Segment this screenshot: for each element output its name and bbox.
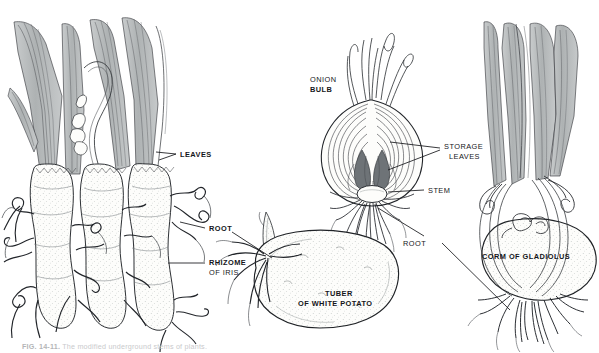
- figure-caption: FIG. 14-11. The modified underground ste…: [22, 342, 207, 351]
- label-root-right: ROOT: [403, 239, 426, 248]
- potato-tuber-body: [254, 230, 398, 328]
- label-onion-line2: BULB: [310, 85, 332, 94]
- label-corm: CORM OF GLADIOLUS: [482, 252, 570, 261]
- figure-caption-text: The modified underground stems of plants…: [62, 342, 207, 351]
- label-storage-line1: STORAGE: [444, 142, 483, 151]
- label-tuber-line2: OF WHITE POTATO: [298, 299, 373, 308]
- iris-rhizome-body: [30, 164, 174, 331]
- label-leaves: LEAVES: [180, 150, 212, 159]
- label-rhizome-line1: RHIZOME: [209, 258, 246, 267]
- figure-number: FIG. 14-11.: [22, 342, 60, 351]
- onion-stem-basal-plate: [357, 186, 387, 203]
- label-root-iris: ROOT: [209, 224, 232, 233]
- label-storage-line2: LEAVES: [449, 152, 480, 161]
- label-tuber-line1: TUBER: [325, 289, 353, 298]
- label-stem: STEM: [428, 186, 450, 195]
- label-onion-line1: ONION: [310, 75, 336, 84]
- label-rhizome-line2: OF IRIS: [209, 268, 239, 277]
